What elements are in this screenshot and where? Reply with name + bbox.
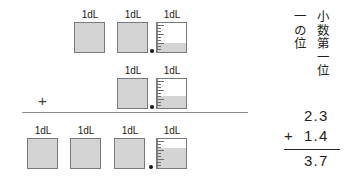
diagram-row-sum: 1dL 1dL 1dL 1dL [0, 116, 200, 174]
unit-label: 1dL [152, 125, 192, 136]
scale-ticks [157, 139, 164, 168]
full-dl-box [114, 138, 145, 169]
unit-label: 1dL [66, 125, 106, 136]
unit-label: 1dL [113, 9, 153, 20]
vertical-calculation: 2.3 + 1.4 3.7 [284, 106, 348, 174]
unit-label: 1dL [113, 65, 153, 76]
place-heading-ones: 一の位 [291, 10, 305, 51]
plus-sign: + [38, 93, 47, 108]
calc-operand-bottom: 1.4 [304, 126, 328, 145]
unit-label: 1dL [110, 125, 150, 136]
full-dl-box [27, 138, 58, 169]
full-dl-box [70, 138, 101, 169]
diagram-row-addend-1: 1dL 1dL 1dL [0, 0, 200, 58]
graduated-cylinder [156, 138, 187, 169]
diagram-row-addend-2: + 1dL 1dL [0, 56, 200, 108]
diagram-sum-rule [22, 112, 248, 113]
unit-label: 1dL [70, 9, 110, 20]
calc-result: 3.7 [304, 151, 328, 170]
unit-label: 1dL [152, 9, 192, 20]
calc-rule [284, 149, 340, 150]
calc-operator: + [284, 126, 293, 145]
unit-label: 1dL [23, 125, 63, 136]
decimal-point-dot [149, 165, 153, 169]
place-heading-first-decimal: 小数第一位 [314, 10, 328, 78]
unit-label: 1dL [152, 65, 192, 76]
scale-ticks [157, 79, 164, 108]
graduated-cylinder [156, 78, 187, 109]
full-dl-box [74, 22, 105, 53]
decimal-point-dot [150, 105, 154, 109]
worksheet-canvas: 1dL 1dL 1dL + [0, 0, 356, 179]
full-dl-box [117, 22, 148, 53]
scale-ticks [157, 23, 164, 52]
decimal-point-dot [150, 49, 154, 53]
full-dl-box [117, 78, 148, 109]
calc-operand-top: 2.3 [304, 106, 328, 125]
graduated-cylinder [156, 22, 187, 53]
